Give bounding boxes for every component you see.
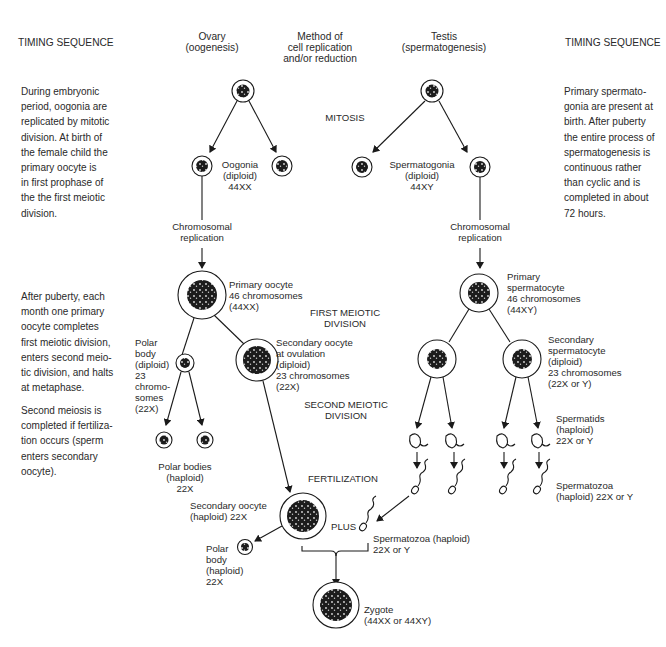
timing-spermatogonia-text: Primary spermato- gonia are present at b…: [564, 84, 664, 221]
timing-second-meiosis-text: Second meiosis is completed if fertiliza…: [21, 403, 121, 479]
spermatids-label: Spermatids (haploid) 22X or Y: [556, 413, 605, 446]
timing-sequence-right-header: TIMING SEQUENCE: [565, 37, 661, 48]
primary-spermatocyte-label: Primary spermatocyte 46 chromosomes (44X…: [507, 271, 581, 315]
oogonia-label: Oogonia (diploid) 44XX: [218, 159, 262, 192]
spermatid-icons: [410, 434, 550, 448]
spermatozoa-label: Spermatozoa (haploid) 22X or Y: [556, 480, 633, 502]
ovary-replication-label: Chromosomal replication: [164, 221, 240, 243]
secondary-oocyte-haploid-label: Secondary oocyte (haploid) 22X: [190, 500, 267, 522]
spermatozoa-icons: [358, 459, 550, 532]
secondary-oocyte-ovulation-label: Secondary oocyte at ovulation (diploid) …: [276, 337, 353, 392]
method-header: Method of cell replication and/or reduct…: [270, 31, 370, 64]
fertilizing-spermatozoa-label: Spermatozoa (haploid) 22X or Y: [373, 533, 470, 555]
timing-embryonic-text: During embryonic period, oogonia are rep…: [21, 84, 121, 221]
polar-body-haploid-label: Polar body (haploid) 22X: [206, 543, 243, 587]
secondary-spermatocyte-label: Secondary spermatocyte (diploid) 23 chro…: [548, 334, 622, 389]
plus-label: PLUS: [331, 521, 356, 532]
timing-sequence-left-header: TIMING SEQUENCE: [18, 37, 114, 48]
zygote-label: Zygote (44XX or 44XY): [364, 604, 431, 626]
timing-puberty-text: After puberty, each month one primary oo…: [21, 289, 121, 395]
stage-first-meiotic-division: FIRST MEIOTIC DIVISION: [300, 307, 390, 329]
stage-second-meiotic-division: SECOND MEIOTIC DIVISION: [296, 399, 396, 421]
spermatogonia-label: Spermatogonia (diploid) 44XY: [382, 159, 462, 192]
ovary-header: Ovary (oogenesis): [178, 31, 246, 53]
testis-header: Testis (spermatogenesis): [394, 31, 494, 53]
polar-body-diploid-label: Polar body (diploid) 23 chromo- somes (2…: [135, 337, 170, 414]
stage-mitosis: MITOSIS: [315, 112, 375, 123]
primary-oocyte-label: Primary oocyte 46 chromosomes (44XX): [229, 279, 303, 312]
testis-replication-label: Chromosomal replication: [440, 221, 520, 243]
stage-fertilization: FERTILIZATION: [308, 473, 378, 484]
polar-bodies-haploid-label: Polar bodies (haploid) 22X: [152, 461, 218, 494]
fertilization-bracket: [302, 543, 368, 585]
